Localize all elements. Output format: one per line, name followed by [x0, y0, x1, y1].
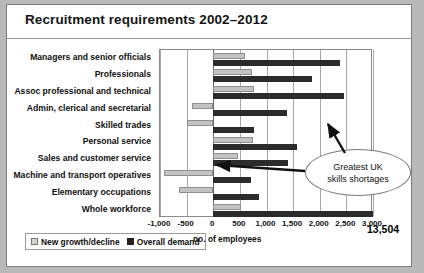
x-tick-label: -500 [178, 219, 194, 228]
legend-item-overall-demand: Overall demand [127, 237, 200, 247]
bar-overall-demand [213, 211, 373, 217]
bar-overall-demand [213, 93, 344, 99]
bar-overall-demand [213, 144, 297, 150]
x-tick-label: 500 [232, 219, 245, 228]
bar-new-growth-decline [179, 187, 213, 193]
x-tick-label: -1,000 [148, 219, 171, 228]
category-label: Personal service [83, 133, 151, 149]
bar-new-growth-decline [192, 103, 213, 109]
bar-new-growth-decline [187, 120, 214, 126]
category-label: Whole workforce [82, 201, 151, 217]
bar-new-growth-decline [213, 204, 241, 210]
category-label: Skilled trades [95, 117, 151, 133]
bar-new-growth-decline [164, 170, 213, 176]
x-tick-label: 0 [210, 219, 214, 228]
legend-swatch-icon-new-growth-decline [31, 238, 38, 245]
data-label-whole-workforce: 13,504 [367, 223, 399, 235]
category-label: Assoc professional and technical [14, 83, 151, 99]
legend-label-new-growth-decline: New growth/decline [41, 237, 120, 247]
category-label: Managers and senior officials [30, 49, 151, 65]
bar-overall-demand [213, 127, 254, 133]
category-label: Professionals [95, 66, 151, 82]
x-tick-label: 1,000 [255, 219, 275, 228]
bar-overall-demand [213, 160, 288, 166]
x-axis-caption: no. of employees [193, 234, 261, 244]
x-axis-ticks: -1,000-50005001,0001,5002,0002,5003,000 [159, 219, 372, 231]
x-tick-label: 1,500 [282, 219, 302, 228]
x-tick-label: 2,000 [309, 219, 329, 228]
bar-overall-demand [213, 110, 286, 116]
category-axis-labels: Managers and senior officialsProfessiona… [15, 49, 155, 217]
annotation-callout: Greatest UK skills shortages [305, 149, 411, 196]
category-label: Machine and transport operatives [13, 167, 151, 183]
bar-new-growth-decline [213, 137, 252, 143]
bar-overall-demand [213, 76, 312, 82]
bar-overall-demand [213, 194, 258, 200]
page-title: Recruitment requirements 2002–2012 [25, 12, 268, 27]
bar-overall-demand [213, 177, 250, 183]
bar-new-growth-decline [213, 53, 244, 59]
chart-card: Recruitment requirements 2002–2012 Manag… [6, 4, 412, 267]
x-tick-label: 2,500 [335, 219, 355, 228]
annotation-line-1: Greatest UK [333, 161, 383, 173]
bar-new-growth-decline [213, 86, 254, 92]
category-label: Elementary occupations [52, 184, 151, 200]
legend-label-overall-demand: Overall demand [137, 237, 200, 247]
legend-item-new-growth-decline: New growth/decline [31, 237, 120, 247]
bar-overall-demand [213, 60, 340, 66]
bar-new-growth-decline [213, 69, 252, 75]
legend-swatch-icon-overall-demand [127, 238, 134, 245]
chart-legend: New growth/decline Overall demand [25, 233, 206, 250]
bar-new-growth-decline [213, 153, 237, 159]
category-label: Admin, clerical and secretarial [27, 100, 151, 116]
annotation-line-2: skills shortages [327, 173, 389, 185]
category-label: Sales and customer service [38, 150, 151, 166]
chart-area: Managers and senior officialsProfessiona… [15, 41, 405, 263]
chart-title-bar: Recruitment requirements 2002–2012 [7, 5, 411, 39]
